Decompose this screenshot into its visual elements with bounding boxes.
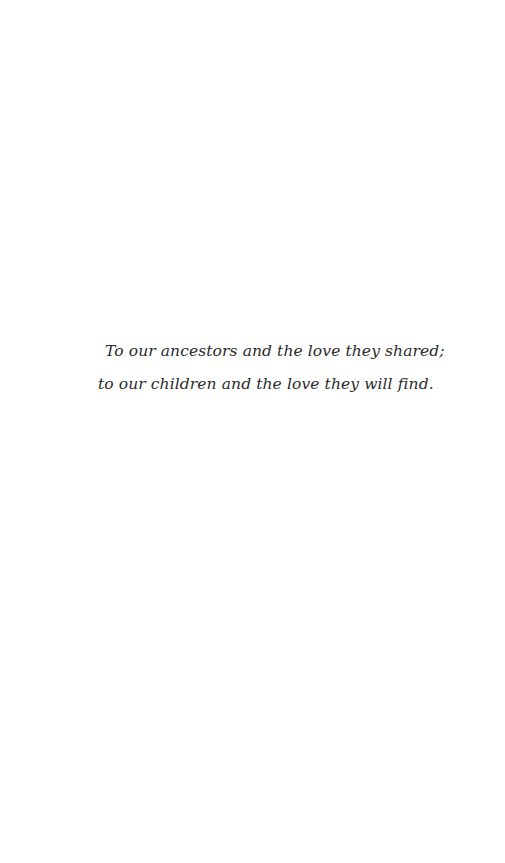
book-page: To our ancestors and the love they share… [0, 0, 505, 863]
dedication-line-2: to our children and the love they will f… [98, 375, 434, 393]
dedication-line-1: To our ancestors and the love they share… [105, 342, 445, 360]
